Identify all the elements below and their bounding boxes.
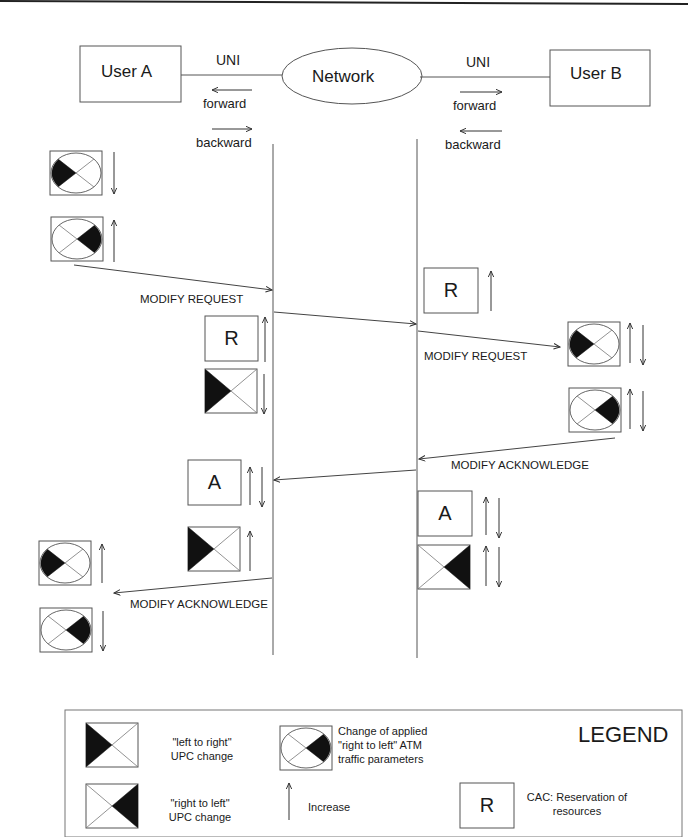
legend-ltr-text: "left to right" UPC change [152,735,252,763]
top-border [0,1,688,4]
modify-request-arrow-2 [274,312,416,324]
legend-title: LEGEND [578,722,668,748]
left-uni-label: UNI [216,52,240,68]
user-b-label: User B [570,64,622,84]
reservation-letter: R [205,327,258,350]
atm-params-symbol [569,388,621,432]
legend-rtl-text: "right to left" UPC change [150,796,250,824]
user-a-label: User A [101,62,152,82]
signaling-diagram: User A Network User B UNI UNI forward ba… [0,0,688,837]
modify-acknowledge-arrow-2 [274,470,416,480]
message-label: MODIFY REQUEST [140,293,243,305]
right-forward-label: forward [453,98,496,113]
left-forward-label: forward [203,96,246,111]
right-to-left-upc-symbol [418,545,470,589]
left-backward-label: backward [196,135,252,150]
acknowledge-letter: A [418,502,472,525]
legend-rtl-symbol [86,784,138,828]
message-label: MODIFY REQUEST [424,350,527,362]
legend-atm-text: Change of applied "right to left" ATM tr… [338,724,458,766]
atm-params-symbol [39,541,91,585]
message-label: MODIFY ACKNOWLEDGE [451,459,589,471]
modify-request-arrow-3 [418,331,560,347]
reservation-letter: R [424,279,478,302]
atm-params-symbol [51,217,103,261]
legend-cac-text: CAC: Reservation of resources [517,790,637,818]
modify-acknowledge-arrow-3 [114,578,272,593]
right-backward-label: backward [445,137,501,152]
atm-params-symbol [568,322,620,366]
right-uni-label: UNI [466,54,490,70]
atm-params-symbol [40,608,92,652]
network-label: Network [312,67,374,87]
modify-request-arrow-1 [74,265,272,290]
acknowledge-letter: A [188,471,241,494]
legend-increase-text: Increase [308,800,350,814]
modify-acknowledge-arrow-1 [419,438,615,459]
legend-ltr-symbol [86,723,138,767]
left-to-right-upc-symbol [205,369,257,413]
legend-r-letter: R [460,794,514,817]
atm-params-symbol [50,151,102,195]
left-to-right-upc-symbol [188,527,240,571]
message-label: MODIFY ACKNOWLEDGE [130,598,268,610]
legend-atm-symbol [280,726,332,770]
